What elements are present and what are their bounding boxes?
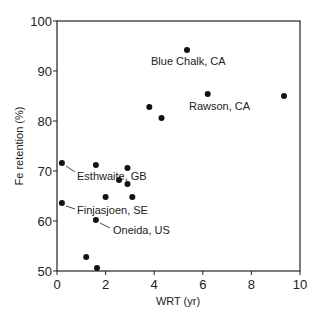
data-point bbox=[59, 200, 65, 206]
x-tick-label: 6 bbox=[199, 277, 206, 292]
data-point bbox=[129, 194, 135, 200]
data-point bbox=[205, 91, 211, 97]
x-tick-label: 8 bbox=[248, 277, 255, 292]
label-rawson: Rawson, CA bbox=[189, 100, 251, 112]
data-point bbox=[59, 160, 65, 166]
x-tick-label: 4 bbox=[151, 277, 158, 292]
data-point bbox=[159, 115, 165, 121]
y-tick-label: 70 bbox=[38, 164, 52, 179]
y-axis-title: Fe retention (%) bbox=[13, 107, 25, 186]
data-point bbox=[146, 104, 152, 110]
data-point bbox=[93, 162, 99, 168]
label-esthwaite: Esthwaite, GB bbox=[77, 170, 147, 182]
label-oneida: Oneida, US bbox=[113, 224, 170, 236]
y-tick-label: 50 bbox=[38, 264, 52, 279]
x-tick-label: 2 bbox=[102, 277, 109, 292]
data-points bbox=[59, 47, 287, 271]
x-axis: 0 2 4 6 8 10 WRT (yr) bbox=[53, 271, 307, 307]
data-point bbox=[281, 93, 287, 99]
data-point bbox=[93, 217, 99, 223]
data-point bbox=[103, 194, 109, 200]
y-axis: 50 60 70 80 90 100 Fe retention (%) bbox=[13, 14, 57, 279]
y-tick-label: 90 bbox=[38, 64, 52, 79]
y-tick-label: 60 bbox=[38, 214, 52, 229]
y-tick-label: 100 bbox=[30, 14, 52, 29]
data-point bbox=[83, 254, 89, 260]
x-tick-label: 10 bbox=[293, 277, 307, 292]
x-axis-title: WRT (yr) bbox=[156, 295, 200, 307]
scatter-chart: 50 60 70 80 90 100 Fe retention (%) 0 2 … bbox=[0, 0, 322, 322]
x-tick-label: 0 bbox=[53, 277, 60, 292]
label-finjasjoen: Finjasjoen, SE bbox=[77, 204, 148, 216]
y-tick-label: 80 bbox=[38, 114, 52, 129]
data-point bbox=[184, 47, 190, 53]
label-blue-chalk: Blue Chalk, CA bbox=[151, 55, 226, 67]
data-point bbox=[94, 265, 100, 271]
